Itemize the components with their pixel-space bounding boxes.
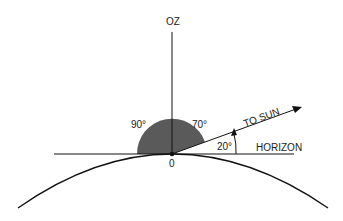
zenith-label: OZ: [166, 16, 180, 27]
elevation-angle-arc: [234, 134, 236, 154]
sun-ray-arrowhead-icon: [292, 106, 302, 113]
solar-angle-diagram: OZ 90° 70° TO SUN 20° HORIZON 0: [0, 0, 343, 221]
elevation-angle-label: 20°: [217, 141, 232, 152]
origin-point: [170, 152, 175, 157]
angle-70-label: 70°: [192, 119, 207, 130]
angle-90-label: 90°: [131, 119, 146, 130]
origin-label: 0: [169, 158, 175, 169]
sun-direction-label: TO SUN: [242, 106, 281, 129]
horizon-label: HORIZON: [256, 142, 302, 153]
